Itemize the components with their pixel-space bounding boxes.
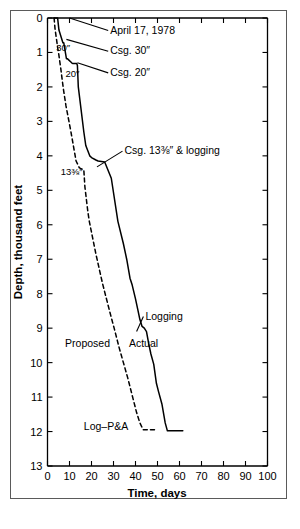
y-tick-label: 13: [30, 460, 42, 472]
x-tick-label: 100: [258, 470, 276, 482]
y-tick-label: 4: [36, 150, 42, 162]
csg-20-leader: [77, 63, 108, 73]
x-tick-label: 40: [129, 470, 141, 482]
csg-13-3-8-logging: Csg. 13⅜″ & logging: [125, 144, 221, 156]
x-axis-title: Time, days: [127, 487, 186, 499]
y-tick-label: 8: [36, 288, 42, 300]
y-tick-label: 3: [36, 115, 42, 127]
x-tick-label: 70: [195, 470, 207, 482]
y-axis-title: Depth, thousand feet: [12, 185, 24, 300]
figure-container: 0102030405060708090100012345678910111213…: [0, 0, 300, 529]
april-date: April 17, 1978: [110, 24, 175, 36]
series-proposed: [54, 18, 157, 430]
y-tick-label: 11: [31, 391, 42, 403]
y-tick-label: 5: [36, 184, 42, 196]
label-logging: Logging: [145, 310, 183, 322]
x-tick-label: 50: [151, 470, 163, 482]
april-date-leader: [70, 18, 109, 31]
csg-13-3-8-logging-leader: [97, 151, 123, 167]
label-20-inch: 20″: [66, 68, 81, 79]
drilling-depth-vs-time-chart: 0102030405060708090100012345678910111213…: [0, 0, 300, 529]
csg-20: Csg. 20″: [110, 66, 150, 78]
csg-30: Csg. 30″: [110, 44, 150, 56]
csg-30-leader: [66, 39, 108, 51]
chart-series: [54, 18, 183, 431]
y-tick-label: 2: [36, 81, 42, 93]
x-tick-label: 10: [63, 470, 75, 482]
y-tick-label: 12: [30, 426, 42, 438]
label-actual: Actual: [129, 337, 158, 349]
x-tick-label: 80: [217, 470, 229, 482]
x-tick-label: 60: [173, 470, 185, 482]
label-proposed: Proposed: [65, 337, 110, 349]
x-tick-label: 20: [85, 470, 97, 482]
y-tick-label: 0: [36, 12, 42, 24]
y-tick-label: 1: [36, 46, 42, 58]
y-tick-label: 9: [36, 322, 42, 334]
label-30-inch: 30″: [56, 42, 71, 53]
x-tick-label: 0: [44, 470, 50, 482]
x-tick-label: 30: [107, 470, 119, 482]
label-log-pa: Log–P&A: [84, 420, 128, 432]
y-tick-label: 6: [36, 219, 42, 231]
label-13-3-8-inch: 13⅜″: [61, 166, 83, 177]
x-tick-label: 90: [239, 470, 251, 482]
y-tick-label: 10: [30, 357, 42, 369]
series-actual: [54, 18, 183, 431]
chart-axes: 0102030405060708090100012345678910111213: [30, 12, 276, 482]
chart-annotations: April 17, 1978Csg. 30″Csg. 20″Csg. 13⅜″ …: [56, 18, 220, 432]
y-tick-label: 7: [36, 253, 42, 265]
